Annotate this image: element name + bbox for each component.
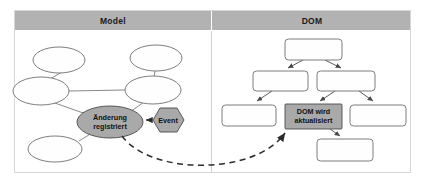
- dom-node-level1-right[interactable]: [317, 71, 375, 91]
- header-band-dom: DOM: [212, 11, 410, 30]
- panel-title-model: Model: [100, 16, 126, 26]
- dom-updated-label-line2: aktualisiert: [295, 116, 334, 125]
- dom-node-level2-left[interactable]: [222, 105, 276, 126]
- dom-node-level2-right[interactable]: [350, 105, 406, 126]
- dom-node-updated[interactable]: DOM wird aktualisiert: [285, 104, 342, 129]
- panel-title-dom: DOM: [302, 16, 323, 26]
- model-node-ellipse-2[interactable]: [130, 45, 182, 71]
- model-node-ellipse-3[interactable]: [13, 77, 69, 105]
- model-node-ellipse-1[interactable]: [33, 47, 85, 73]
- model-node-ellipse-5[interactable]: [28, 136, 82, 162]
- diagram-figure: Model DOM: [0, 0, 425, 183]
- change-registered-label-line1: Änderung: [93, 113, 127, 122]
- dom-node-level3-leaf[interactable]: [317, 139, 373, 161]
- dom-node-root[interactable]: [285, 39, 342, 60]
- model-node-event[interactable]: Event: [153, 108, 184, 132]
- model-node-ellipse-4[interactable]: [125, 76, 181, 104]
- dom-updated-label-line1: DOM wird: [297, 107, 331, 116]
- dom-node-level1-left[interactable]: [253, 71, 308, 91]
- event-label: Event: [158, 116, 178, 125]
- header-band-model: Model: [15, 11, 211, 30]
- model-dom-diagram: Model DOM: [0, 0, 425, 183]
- change-registered-label-line2: registriert: [93, 122, 127, 131]
- model-node-change-registered[interactable]: Änderung registriert: [77, 106, 143, 138]
